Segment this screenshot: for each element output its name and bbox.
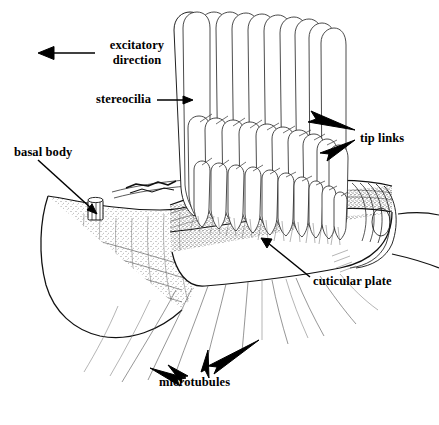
excitatory-direction-arrow — [38, 47, 95, 60]
cuticular-plate-label: cuticular plate — [313, 274, 392, 289]
apical-granules — [112, 180, 188, 198]
hair-cell-diagram: excitatory direction stereocilia tip lin… — [0, 0, 439, 425]
excitatory-direction-label: excitatory direction — [95, 38, 179, 68]
membrane-tail-upper — [398, 213, 439, 215]
basal-body-label: basal body — [14, 145, 72, 160]
diagram-canvas — [0, 0, 439, 425]
stereocilia-bundle — [174, 12, 348, 245]
tip-links-label: tip links — [360, 131, 404, 146]
microtubules-label: microtubules — [159, 375, 230, 390]
excitatory-direction-line2: direction — [95, 53, 179, 68]
membrane-tail-lower — [392, 254, 439, 268]
excitatory-direction-line1: excitatory — [95, 38, 179, 53]
stereocilia-label: stereocilia — [96, 92, 151, 107]
